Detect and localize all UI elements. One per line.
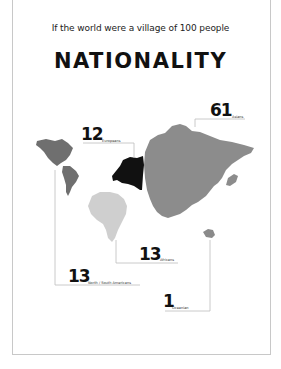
oceania-shape <box>203 229 215 238</box>
africa-shape <box>88 192 127 242</box>
asia-shape <box>144 124 254 218</box>
europe-label: Europeans <box>102 139 121 143</box>
world-map <box>0 0 281 369</box>
europe-shape <box>112 156 144 190</box>
asia-count: 61 <box>210 102 232 119</box>
africa-label: Africans <box>160 258 174 262</box>
europe-count: 12 <box>81 126 103 143</box>
americas-count: 13 <box>68 268 90 285</box>
americas-label: North / South Americans <box>88 281 131 285</box>
asia-label: Asians <box>232 115 243 119</box>
americas-shape <box>36 139 79 196</box>
oceania-label: Oceanian <box>172 306 189 310</box>
africa-count: 13 <box>139 246 161 263</box>
